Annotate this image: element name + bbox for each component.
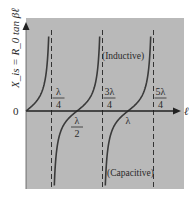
tick-label-denominator: 4 <box>56 99 61 110</box>
tick-label-denominator: 4 <box>158 99 163 110</box>
tick-label-denominator: 2 <box>75 128 80 139</box>
y-axis-label: X_is = R_0 tan βℓ <box>9 8 21 89</box>
capacitive-label: (Capacitive) <box>107 168 154 179</box>
tick-label: λ <box>56 86 61 97</box>
inductive-label: (Inductive) <box>102 51 144 62</box>
tick-label: λ <box>75 115 80 126</box>
tick-label: λ <box>126 115 131 126</box>
tick-label-denominator: 4 <box>107 99 112 110</box>
tick-label: 5λ <box>156 86 166 97</box>
x-axis-label: ℓ <box>184 105 189 117</box>
reactance-chart: ℓ 0 X_is = R_0 tan βℓ λ4λ23λ4λ5λ4 (Induc… <box>0 0 194 198</box>
origin-label: 0 <box>13 105 19 117</box>
tick-label: 3λ <box>105 86 115 97</box>
